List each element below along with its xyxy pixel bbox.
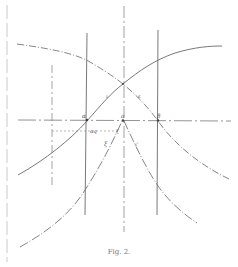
point-a xyxy=(122,119,125,122)
lower-curve-right xyxy=(124,121,197,223)
label-alpha: α xyxy=(82,112,86,119)
label-lower-right: ι' xyxy=(135,141,138,147)
label-lower-left: ξ xyxy=(104,140,108,148)
vertical-line-beta xyxy=(157,30,158,215)
label-a: a xyxy=(121,112,125,119)
point-beta xyxy=(157,119,160,122)
horizontal-axis xyxy=(18,120,231,121)
point-intersection xyxy=(122,83,124,85)
label-curve-right: ε xyxy=(138,93,141,99)
label-beta: β xyxy=(156,112,161,120)
figure-caption: Fig. 2. xyxy=(0,248,238,256)
curve-ascending xyxy=(18,46,222,175)
label-sub: ζ xyxy=(116,128,119,135)
label-curve-left: ι xyxy=(106,93,108,99)
diagram-canvas: α a β ι ε ɑq ζ ξ ι' xyxy=(0,0,238,267)
label-dimension: ɑq xyxy=(90,128,97,135)
point-alpha xyxy=(86,119,89,122)
